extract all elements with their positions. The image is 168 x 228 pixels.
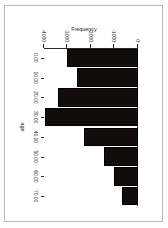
bar[interactable] [103,147,137,166]
category-tick [41,156,44,157]
category-tick [41,176,44,177]
rotated-chart-stage: 0-1000-2000-3000-4000 0.0010.0020.0030.0… [14,14,154,214]
category-tick [41,196,44,197]
bar-slot [44,48,138,67]
bar-slot [44,147,138,166]
bar-slot [44,107,138,126]
value-tick-label: 0 [135,39,141,42]
bar[interactable] [121,186,137,205]
value-tick [90,44,91,48]
bar[interactable] [67,48,138,67]
category-tick-label: 30.00 [33,111,39,123]
category-tick-label: 70.00 [33,190,39,202]
category-tick [41,117,44,118]
category-tick-label: 0.00 [33,53,39,62]
bar[interactable] [76,68,137,87]
bar-slot [44,167,138,186]
bar[interactable] [83,127,137,146]
value-tick-label: -3000 [64,29,70,42]
value-tick-label: -1000 [111,29,117,42]
plot-area: 0-1000-2000-3000-4000 0.0010.0020.0030.0… [44,48,138,206]
category-tick [41,97,44,98]
bar-slot [44,68,138,87]
category-tick [41,136,44,137]
bar[interactable] [114,167,138,186]
category-tick-label: 20.00 [33,91,39,103]
category-tick-label: 50.00 [33,150,39,162]
screenshot-root: 0-1000-2000-3000-4000 0.0010.0020.0030.0… [0,0,168,228]
category-tick [41,77,44,78]
bar-slot [44,186,138,205]
chart-page-frame: 0-1000-2000-3000-4000 0.0010.0020.0030.0… [4,5,163,222]
value-tick-label: -4000 [41,29,47,42]
value-tick [43,44,44,48]
y-axis-title: Frequency [71,25,96,31]
value-tick [66,44,67,48]
bar-slot [44,127,138,146]
value-tick [137,44,138,48]
value-tick [113,44,114,48]
category-tick [41,57,44,58]
bar[interactable] [58,88,138,107]
category-tick-label: 10.00 [33,71,39,83]
category-tick-label: 60.00 [33,170,39,182]
bar-slot [44,88,138,107]
bar-chart: 0-1000-2000-3000-4000 0.0010.0020.0030.0… [14,14,154,214]
category-tick-label: 40.00 [33,130,39,142]
x-axis-title: age [20,48,26,206]
bar[interactable] [45,107,138,126]
